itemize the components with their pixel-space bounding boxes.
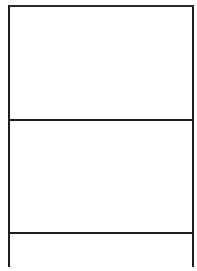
panel-1	[10, 7, 192, 119]
panel-frame	[8, 5, 194, 267]
panel-2	[10, 121, 192, 232]
panel-3	[10, 234, 192, 271]
